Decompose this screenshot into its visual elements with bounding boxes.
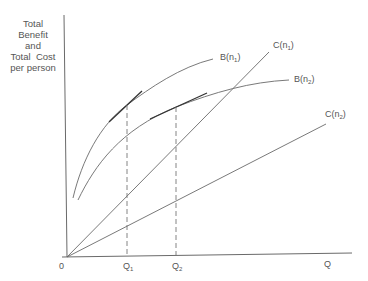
cost-line-n1 [67,52,269,257]
origin-label: 0 [59,261,64,271]
y-axis [64,15,67,257]
tangent-n2 [150,93,207,119]
benefit-curve-n2 [78,80,289,200]
tick-q1: Q1 [123,261,134,272]
svg-text:Total Cost: Total Cost [11,51,56,62]
svg-text:per person: per person [10,62,55,73]
tangent-n1 [109,91,142,122]
label-cost-n1: C(n1) [273,40,294,51]
tick-q2: Q2 [172,261,183,272]
label-cost-n2: C(n2) [325,109,346,120]
svg-text:and: and [25,40,41,51]
label-benefit-n1: B(n1) [220,52,240,63]
x-axis [62,253,352,257]
svg-text:Total: Total [23,18,43,29]
x-axis-label: Q [324,259,331,269]
y-axis-label: Total Benefit and Total Cost per person [10,18,56,73]
benefit-cost-diagram: Total Benefit and Total Cost per person … [0,0,368,281]
svg-text:Benefit: Benefit [18,29,48,40]
cost-line-n2 [67,124,326,257]
label-benefit-n2: B(n2) [294,74,314,85]
benefit-curve-n1 [73,59,213,198]
